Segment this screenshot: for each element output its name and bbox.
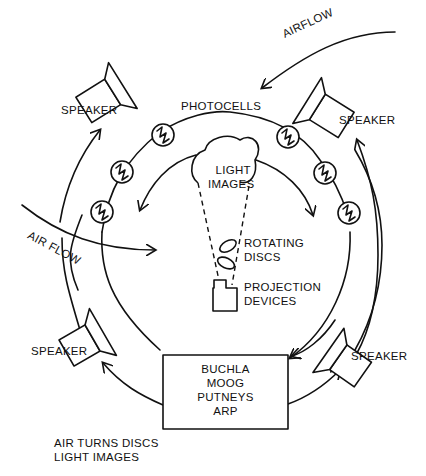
photocell-icon: [152, 124, 174, 146]
rotating-discs-line: DISCS: [244, 250, 304, 264]
rotating-disc-icon: [218, 237, 239, 255]
airflow-top-arrow: [262, 32, 395, 88]
synth-item: PUTNEYS: [163, 390, 288, 404]
caption-line: LIGHT IMAGES: [54, 450, 159, 464]
speaker-top-left-label: SPEAKER: [61, 103, 117, 117]
photocell-icon: [91, 201, 113, 223]
projection-beam-left: [198, 183, 220, 285]
photocells-label: PHOTOCELLS: [181, 99, 261, 113]
photocell-icon: [338, 202, 360, 224]
photocell-icon: [314, 162, 336, 184]
projection-devices-line: PROJECTION: [244, 280, 321, 294]
box-to-left-speaker-arrow: [103, 363, 163, 405]
speaker-top-left-icon: [70, 63, 138, 133]
projection-devices-label: PROJECTION DEVICES: [244, 280, 321, 308]
rotating-disc-icon: [216, 255, 237, 272]
synth-item: ARP: [163, 404, 288, 418]
speaker-top-right-label: SPEAKER: [339, 113, 395, 127]
box-to-right-speaker-arrow: [288, 370, 340, 404]
light-arc-left: [140, 155, 196, 210]
outer-right-arrow-arc: [356, 140, 378, 355]
light-images-line: IMAGES: [208, 177, 255, 191]
caption: AIR TURNS DISCS LIGHT IMAGES: [54, 436, 159, 464]
projection-devices-line: DEVICES: [244, 294, 321, 308]
projection-device-icon: [213, 280, 237, 311]
light-images-label: LIGHT IMAGES: [212, 163, 255, 191]
rotating-discs-label: ROTATING DISCS: [244, 236, 304, 264]
synth-item: MOOG: [163, 376, 288, 390]
synthesizer-box-label: BUCHLA MOOG PUTNEYS ARP: [163, 362, 288, 418]
synth-item: BUCHLA: [163, 362, 288, 376]
light-arc-right: [256, 160, 313, 215]
speaker-bottom-left-label: SPEAKER: [31, 344, 87, 358]
light-images-line: LIGHT: [212, 163, 255, 177]
photocell-icon: [111, 161, 133, 183]
caption-line: AIR TURNS DISCS: [54, 436, 159, 450]
rotating-discs-line: ROTATING: [244, 236, 304, 250]
photocell-icon: [277, 126, 299, 148]
speaker-bottom-right-label: SPEAKER: [351, 349, 407, 363]
